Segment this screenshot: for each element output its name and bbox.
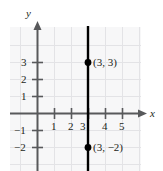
y-tick-label-3: 3 xyxy=(21,57,27,68)
y-tick-label-neg2: −2 xyxy=(14,142,26,153)
x-tick-label-2: 2 xyxy=(68,121,74,132)
data-point-label-bottom: (3, −2) xyxy=(93,142,123,153)
x-tick-label-4: 4 xyxy=(102,121,108,132)
y-axis-label: y xyxy=(26,8,31,19)
y-tick-label-neg1: −1 xyxy=(14,125,26,136)
data-point-marker-top xyxy=(85,59,92,66)
y-axis-arrow-icon xyxy=(34,21,42,30)
x-tick-label-5: 5 xyxy=(119,121,125,132)
y-tick-label-1: 1 xyxy=(21,91,27,102)
x-tick-label-3: 3 xyxy=(80,121,86,132)
x-axis-label: x xyxy=(150,108,155,119)
y-tick-label-2: 2 xyxy=(21,74,27,85)
x-tick-label-1: 1 xyxy=(51,121,57,132)
coordinate-graph-figure: y x 3 2 1 −1 −2 1 2 3 4 5 (3, 3) (3, −2) xyxy=(0,0,163,171)
data-point-marker-bottom xyxy=(85,144,92,151)
data-point-label-top: (3, 3) xyxy=(93,57,117,68)
x-axis-arrow-icon xyxy=(138,110,147,118)
